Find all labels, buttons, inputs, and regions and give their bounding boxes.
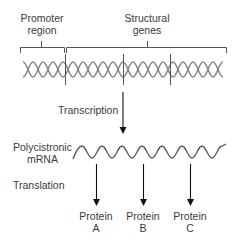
promoter-bracket xyxy=(21,41,65,53)
transcription-arrow xyxy=(120,92,127,134)
protein-b-letter: B xyxy=(126,222,159,234)
structural-genes-bracket xyxy=(67,41,227,53)
protein-c-name: Protein xyxy=(173,210,206,222)
translation-arrow-b xyxy=(140,164,147,206)
translation-arrow-c xyxy=(187,164,194,206)
protein-a-name: Protein xyxy=(79,210,112,222)
translation-arrow-a xyxy=(93,164,100,206)
protein-c-letter: C xyxy=(173,222,206,234)
structural-label-line2: genes xyxy=(125,24,170,36)
transcription-label: Transcription xyxy=(58,104,118,116)
protein-b-label: Protein B xyxy=(126,210,159,234)
protein-b-name: Protein xyxy=(126,210,159,222)
promoter-label-line1: Promoter xyxy=(20,12,63,24)
protein-a-letter: A xyxy=(79,222,112,234)
mrna-label-line1: Polycistronic xyxy=(13,141,72,153)
protein-a-label: Protein A xyxy=(79,210,112,234)
promoter-region-label: Promoter region xyxy=(20,12,63,36)
mrna-strand xyxy=(73,144,226,159)
promoter-label-line2: region xyxy=(20,24,63,36)
operon-diagram xyxy=(0,0,245,248)
structural-label-line1: Structural xyxy=(125,12,170,24)
translation-label: Translation xyxy=(13,179,65,191)
protein-c-label: Protein C xyxy=(173,210,206,234)
polycistronic-mrna-label: Polycistronic mRNA xyxy=(13,141,72,165)
structural-genes-label: Structural genes xyxy=(125,12,170,36)
mrna-label-line2: mRNA xyxy=(13,153,72,165)
